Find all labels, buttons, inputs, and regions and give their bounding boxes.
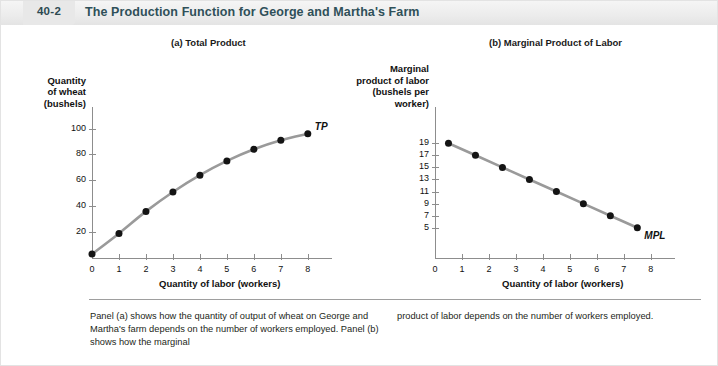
- y-axis-tick-label: 17: [389, 149, 429, 159]
- x-axis-tick-label: 7: [609, 264, 639, 274]
- y-axis-tick-label: 9: [389, 198, 429, 208]
- x-axis-tick: [543, 254, 544, 260]
- caption-divider: [89, 299, 701, 300]
- x-axis-tick-label: 1: [447, 264, 477, 274]
- y-axis-title-line: product of labor: [315, 75, 429, 87]
- x-axis-tick-label: 2: [474, 264, 504, 274]
- x-axis-tick: [651, 254, 652, 260]
- y-axis-tick: [432, 228, 439, 229]
- x-axis-tick-label: 8: [636, 264, 666, 274]
- series-label-mpl: MPL: [644, 230, 665, 241]
- y-axis-tick-label: 13: [389, 173, 429, 183]
- y-axis-tick-label: 5: [389, 222, 429, 232]
- x-axis-tick-label: 0: [420, 264, 450, 274]
- x-axis-line: [435, 258, 675, 259]
- y-axis-tick: [432, 192, 439, 193]
- x-axis-tick: [516, 254, 517, 260]
- y-axis-title-line: (bushels per: [315, 86, 429, 98]
- x-axis-title: Quantity of labor (workers): [502, 278, 623, 289]
- y-axis-title: Marginalproduct of labor(bushels perwork…: [315, 63, 429, 109]
- figure-container: FIGURE 40-2 The Production Function for …: [0, 0, 718, 366]
- y-axis-tick: [432, 167, 439, 168]
- x-axis-tick: [624, 254, 625, 260]
- y-axis-tick: [432, 216, 439, 217]
- y-axis-tick: [432, 204, 439, 205]
- y-axis-tick: [432, 179, 439, 180]
- y-axis-title-line: Marginal: [315, 63, 429, 75]
- x-axis-tick-label: 4: [528, 264, 558, 274]
- y-axis-tick-label: 11: [389, 186, 429, 196]
- x-axis-tick-label: 6: [582, 264, 612, 274]
- y-axis-tick-label: 7: [389, 210, 429, 220]
- y-axis-tick-label: 19: [389, 137, 429, 147]
- x-axis-tick: [597, 254, 598, 260]
- x-axis-tick-label: 5: [555, 264, 585, 274]
- x-axis-tick: [489, 254, 490, 260]
- caption-left: Panel (a) shows how the quantity of outp…: [90, 310, 390, 350]
- x-axis-tick: [462, 254, 463, 260]
- x-axis-tick: [570, 254, 571, 260]
- y-axis-title-line: worker): [315, 98, 429, 110]
- y-axis-tick-label: 15: [389, 161, 429, 171]
- y-axis-line: [435, 107, 436, 259]
- y-axis-tick: [432, 155, 439, 156]
- caption-right: product of labor depends on the number o…: [397, 310, 697, 323]
- x-axis-tick-label: 3: [501, 264, 531, 274]
- y-axis-tick: [432, 143, 439, 144]
